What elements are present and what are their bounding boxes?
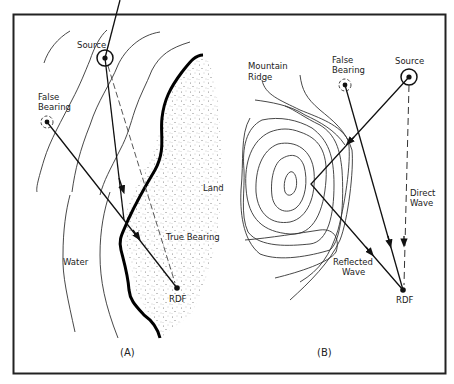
direct-wave-label: Direct bbox=[410, 188, 436, 198]
rdf-label: RDF bbox=[169, 294, 186, 304]
water-label: Water bbox=[63, 257, 89, 267]
rdf-label: RDF bbox=[396, 295, 413, 305]
mountain-ridge-label: Ridge bbox=[248, 72, 272, 82]
source-label: Source bbox=[395, 56, 424, 66]
mountain-contour bbox=[243, 118, 334, 245]
contour-line bbox=[100, 192, 118, 338]
reflected-wave-label: Reflected bbox=[333, 257, 373, 267]
source-label: Source bbox=[77, 40, 106, 50]
refracted-incoming-ray bbox=[105, 58, 124, 220]
true-bearing-label: True Bearing bbox=[165, 232, 220, 242]
panel-a: Source False Bearing Land True Bearing W… bbox=[37, 0, 224, 358]
direct-wave-label: Wave bbox=[410, 198, 433, 208]
mountain-ridge-label: Mountain bbox=[248, 61, 288, 71]
contour-line bbox=[44, 31, 70, 63]
figure-frame bbox=[14, 15, 446, 374]
false-bearing-label: Bearing bbox=[38, 102, 71, 112]
false-bearing-label: Bearing bbox=[332, 65, 365, 75]
radio-direction-finding-diagram: Source False Bearing Land True Bearing W… bbox=[0, 0, 454, 384]
direct-wave-line bbox=[404, 85, 409, 285]
false-bearing-label: False bbox=[38, 92, 59, 102]
land-label: Land bbox=[203, 183, 224, 193]
source-ray bbox=[105, 0, 120, 58]
mountain-contour bbox=[245, 230, 337, 278]
false-bearing-label: False bbox=[332, 55, 353, 65]
mountain-contour bbox=[271, 155, 305, 211]
panel-b-caption: (B) bbox=[317, 347, 332, 358]
mountain-contour bbox=[284, 172, 296, 195]
panel-a-caption: (A) bbox=[120, 347, 135, 358]
panel-b: Mountain Ridge False Bearing Source Dire… bbox=[241, 55, 436, 358]
reflected-wave-label: Wave bbox=[342, 267, 365, 277]
